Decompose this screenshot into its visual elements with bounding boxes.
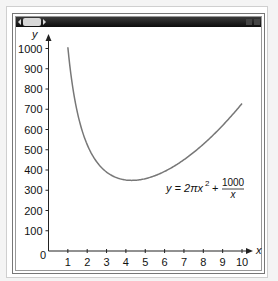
y-tick-label: 200	[24, 205, 42, 217]
y-axis-label: y	[31, 28, 39, 40]
equation-plus: +	[212, 182, 218, 194]
x-tick-label: 6	[162, 256, 168, 268]
x-tick-label: 10	[236, 256, 248, 268]
x-tick-label: 3	[103, 256, 109, 268]
y-tick-label: 500	[24, 144, 42, 156]
equation-annotation: y = 2πx2+1000x	[165, 177, 245, 200]
y-tick-label: 900	[24, 63, 42, 75]
chart-area: xy0 123456789101002003004005006007008009…	[0, 0, 278, 281]
axes: xy0	[31, 28, 262, 261]
equation-exponent: 2	[205, 179, 210, 188]
y-tick-label: 700	[24, 103, 42, 115]
function-curve	[68, 47, 242, 180]
x-tick-label: 8	[200, 256, 206, 268]
y-tick-label: 1000	[18, 43, 42, 55]
y-tick-label: 300	[24, 184, 42, 196]
x-tick-label: 7	[181, 256, 187, 268]
x-tick-label: 5	[142, 256, 148, 268]
x-tick-label: 1	[65, 256, 71, 268]
equation-denominator: x	[230, 189, 237, 200]
x-tick-label: 4	[123, 256, 129, 268]
equation-numerator: 1000	[222, 177, 245, 188]
ticks: 1234567891010020030040050060070080090010…	[18, 43, 248, 269]
y-tick-label: 100	[24, 225, 42, 237]
x-tick-label: 9	[220, 256, 226, 268]
y-tick-label: 400	[24, 164, 42, 176]
y-tick-label: 600	[24, 124, 42, 136]
x-axis-arrow-icon	[246, 248, 253, 254]
origin-label: 0	[40, 249, 46, 261]
y-axis-arrow-icon	[46, 34, 52, 41]
x-axis-label: x	[255, 244, 262, 256]
x-tick-label: 2	[84, 256, 90, 268]
equation-lhs: y = 2πx	[165, 182, 204, 194]
y-tick-label: 800	[24, 83, 42, 95]
